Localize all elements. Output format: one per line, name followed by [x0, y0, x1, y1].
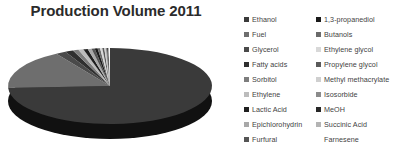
legend-item[interactable]: Sorbitol	[244, 72, 316, 87]
legend-swatch-icon	[244, 32, 249, 37]
pie-svg	[4, 24, 232, 142]
legend-swatch-icon	[244, 122, 249, 127]
legend-swatch-icon	[244, 92, 249, 97]
legend-swatch-icon	[316, 17, 321, 22]
legend-item[interactable]: Isosorbide	[316, 87, 404, 102]
legend-column-right: 1,3-propanediol Butanols Ethylene glycol…	[316, 12, 404, 164]
legend-item-label: Ethylene	[252, 87, 280, 102]
legend-item-label: 1,3-propanediol	[324, 12, 375, 27]
legend-item-label: Sorbitol	[252, 72, 277, 87]
legend-item[interactable]: Fatty acids	[244, 57, 316, 72]
legend-swatch-icon	[316, 92, 321, 97]
legend-item[interactable]: Farnesene	[316, 132, 404, 147]
legend-item-label: Methyl methacrylate	[324, 72, 389, 87]
legend-item[interactable]: Ethylene glycol	[316, 42, 404, 57]
legend-swatch-icon	[244, 107, 249, 112]
legend-item-label: Glycerol	[252, 42, 279, 57]
legend-item-label: Epichlorohydrin	[252, 117, 302, 132]
legend-item-label: MeOH	[324, 102, 345, 117]
legend-column-left: Ethanol Fuel Glycerol Fatty acids Sorbit…	[244, 12, 316, 164]
pie-plot-area	[4, 24, 232, 142]
legend-swatch-icon	[316, 122, 321, 127]
legend-swatch-icon	[244, 62, 249, 67]
legend-item[interactable]: Butanols	[316, 27, 404, 42]
legend-swatch-icon	[316, 137, 321, 142]
legend-item-label: Isosorbide	[324, 87, 358, 102]
legend-swatch-icon	[316, 107, 321, 112]
legend-item[interactable]: 1,3-propanediol	[316, 12, 404, 27]
legend-item[interactable]: Glycerol	[244, 42, 316, 57]
legend-item-label: Ethanol	[252, 12, 277, 27]
legend-item[interactable]: Ethylene	[244, 87, 316, 102]
chart-legend: Ethanol Fuel Glycerol Fatty acids Sorbit…	[244, 12, 404, 164]
pie-slice-group	[8, 48, 212, 124]
legend-item[interactable]: Lactic Acid	[244, 102, 316, 117]
legend-item-label: Propylene glycol	[324, 57, 378, 72]
legend-swatch-icon	[316, 77, 321, 82]
legend-item[interactable]: Propylene glycol	[316, 57, 404, 72]
legend-item-label: Butanols	[324, 27, 352, 42]
legend-item-label: Fatty acids	[252, 57, 287, 72]
pie-chart-figure: Production Volume 2011 Ethanol	[0, 0, 404, 166]
legend-item-label: Succinic Acid	[324, 117, 367, 132]
legend-swatch-icon	[244, 17, 249, 22]
legend-swatch-icon	[316, 47, 321, 52]
legend-item[interactable]: Ethanol	[244, 12, 316, 27]
legend-item-label: Lactic Acid	[252, 102, 287, 117]
legend-item-label: Farnesene	[324, 132, 359, 147]
legend-item-label: Fuel	[252, 27, 266, 42]
legend-item-label: Furfural	[252, 132, 277, 147]
legend-swatch-icon	[316, 62, 321, 67]
legend-item[interactable]: Furfural	[244, 132, 316, 147]
chart-title: Production Volume 2011	[0, 2, 232, 19]
legend-item[interactable]: Fuel	[244, 27, 316, 42]
legend-item[interactable]: Succinic Acid	[316, 117, 404, 132]
legend-item[interactable]: Epichlorohydrin	[244, 117, 316, 132]
legend-swatch-icon	[244, 137, 249, 142]
legend-item[interactable]: Methyl methacrylate	[316, 72, 404, 87]
legend-swatch-icon	[244, 77, 249, 82]
legend-swatch-icon	[316, 32, 321, 37]
legend-swatch-icon	[244, 47, 249, 52]
legend-item-label: Ethylene glycol	[324, 42, 373, 57]
legend-item[interactable]: MeOH	[316, 102, 404, 117]
